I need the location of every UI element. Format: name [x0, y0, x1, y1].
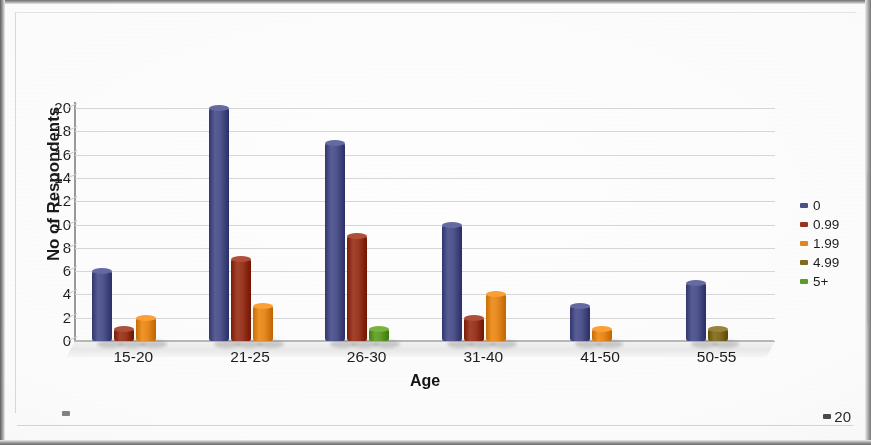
x-axis-tick-label: 31-40 [428, 348, 538, 366]
bar [114, 329, 134, 341]
page-number: 20 [834, 409, 851, 424]
gridline [75, 155, 775, 156]
bar-shadow [597, 340, 623, 348]
bar-group [570, 108, 612, 341]
legend-label: 0 [813, 199, 821, 213]
bar [325, 143, 345, 341]
bar-top-cap [209, 105, 229, 111]
x-axis-tick-label: 21-25 [195, 348, 305, 366]
bar-top-cap [442, 222, 462, 228]
bar [136, 318, 156, 341]
bar-body [347, 236, 367, 341]
bar-group [686, 108, 728, 341]
bar-top-cap [253, 303, 273, 309]
legend-item[interactable]: 5+ [800, 272, 862, 291]
bar-body [231, 259, 251, 341]
x-axis-tick-label: 41-50 [545, 348, 655, 366]
legend-label: 0.99 [813, 218, 839, 232]
bar [686, 283, 706, 341]
footer-left-mark [62, 411, 70, 416]
x-axis-tick-label: 50-55 [662, 348, 772, 366]
gridline [75, 248, 775, 249]
bar-top-cap [686, 280, 706, 286]
bar-shadow [141, 340, 167, 348]
gridline [75, 108, 775, 109]
bar [369, 329, 389, 341]
gridline [75, 271, 775, 272]
bar-body [442, 225, 462, 342]
legend-item[interactable]: 4.99 [800, 253, 862, 272]
bar [464, 318, 484, 341]
bar-body [464, 318, 484, 341]
legend-swatch-icon [800, 222, 808, 227]
gridline [75, 294, 775, 295]
x-axis-tick-label: 15-20 [78, 348, 188, 366]
bar [209, 108, 229, 341]
bar-body [136, 318, 156, 341]
bar-body [570, 306, 590, 341]
legend-label: 5+ [813, 275, 828, 289]
legend-swatch-icon [800, 241, 808, 246]
legend-item[interactable]: 0.99 [800, 215, 862, 234]
gridline [75, 341, 775, 342]
plot-area [75, 108, 775, 341]
y-axis-tick-labels: 02468101214161820 [33, 4, 71, 440]
footer-bullet-icon [823, 414, 831, 419]
slide-edge-right [865, 0, 871, 445]
legend-swatch-icon [800, 279, 808, 284]
legend-item[interactable]: 0 [800, 196, 862, 215]
bar [347, 236, 367, 341]
x-axis-tick-label: 26-30 [312, 348, 422, 366]
bar-top-cap [464, 315, 484, 321]
legend-swatch-icon [800, 203, 808, 208]
bar-body [686, 283, 706, 341]
legend-divider [867, 174, 868, 324]
bar-group [442, 108, 506, 341]
bar-shadow [491, 340, 517, 348]
bar-body [325, 143, 345, 341]
bar-top-cap [136, 315, 156, 321]
legend-swatch-icon [800, 260, 808, 265]
gridline [75, 201, 775, 202]
legend-label: 4.99 [813, 256, 839, 270]
bar-body [209, 108, 229, 341]
legend-label: 1.99 [813, 237, 839, 251]
bar-group [325, 108, 389, 341]
bar [592, 329, 612, 341]
bar [92, 271, 112, 341]
gridline [75, 225, 775, 226]
x-axis-title: Age [75, 372, 775, 390]
slide-page: No of Respondents 02468101214161820 15-2… [5, 4, 865, 440]
x-axis-tick-labels: 15-2021-2526-3031-4041-5050-55 [75, 348, 775, 370]
bar [486, 294, 506, 341]
bar-body [92, 271, 112, 341]
bar-top-cap [570, 303, 590, 309]
gridline [75, 318, 775, 319]
bar [253, 306, 273, 341]
slide-frame: No of Respondents 02468101214161820 15-2… [0, 0, 871, 445]
gridline [75, 178, 775, 179]
chart-legend: 00.991.994.995+ [800, 196, 862, 291]
footer-page-marker: 20 [823, 409, 851, 424]
bar [708, 329, 728, 341]
bar [570, 306, 590, 341]
gridline [75, 131, 775, 132]
bar-group [209, 108, 273, 341]
bar-body [253, 306, 273, 341]
bar-body [486, 294, 506, 341]
bar-shadow [258, 340, 284, 348]
bar-chart: No of Respondents 02468101214161820 15-2… [5, 4, 865, 440]
bar-group [92, 108, 156, 341]
legend-item[interactable]: 1.99 [800, 234, 862, 253]
slide-edge-bottom [0, 440, 871, 445]
bar [442, 225, 462, 342]
bar [231, 259, 251, 341]
